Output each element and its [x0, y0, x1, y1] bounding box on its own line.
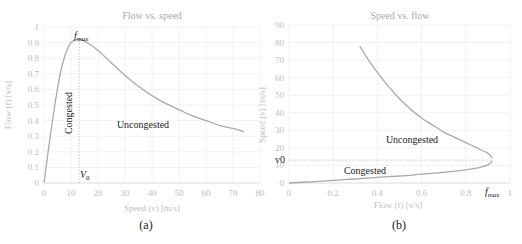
chart-a-fmax-annotation: fmax: [74, 30, 89, 43]
y-tick-label: 20: [275, 143, 285, 153]
x-tick-label: 0.2: [328, 188, 339, 198]
y-tick-label: 40: [275, 108, 285, 118]
chart-b-congested-curve: [289, 161, 492, 183]
x-tick-label: 0.6: [416, 188, 428, 198]
y-tick-label: 0.2: [28, 147, 39, 157]
chart-b-subplot-label: (b): [392, 218, 406, 232]
y-tick-label: 0: [35, 178, 40, 188]
chart-b-fmax-annotation: fmax: [485, 186, 500, 199]
x-tick-label: 0.8: [460, 188, 472, 198]
chart-a-y-axis-label: Flow (f) [v/s]: [3, 81, 13, 130]
chart-a-y-ticks: 00.10.20.30.40.50.60.70.80.91: [28, 22, 40, 188]
x-tick-label: 50: [175, 188, 185, 198]
chart-b-grid: [289, 25, 510, 183]
x-tick-label: 0.4: [372, 188, 384, 198]
chart-b-speed-vs-flow: Speed vs. flow 0102030405060708090 00.20…: [257, 10, 512, 232]
y-tick-label: 80: [275, 38, 285, 48]
chart-b-y-axis-label: Speed (v) [m/s]: [257, 87, 267, 143]
y-tick-label: 50: [275, 90, 285, 100]
chart-b-congested-label: Congested: [344, 165, 386, 176]
chart-a-x-ticks: 01020304050607080: [42, 188, 265, 198]
chart-a-subplot-label: (a): [139, 218, 152, 232]
chart-b-x-axis-label: Flow (f) [v/s]: [374, 200, 423, 210]
y-tick-label: 0.6: [28, 84, 40, 94]
x-tick-label: 40: [148, 188, 158, 198]
chart-a-title: Flow vs. speed: [122, 10, 182, 21]
x-tick-label: 20: [94, 188, 104, 198]
y-tick-label: 1: [35, 22, 40, 32]
x-tick-label: 0: [287, 188, 292, 198]
chart-a-uncongested-label: Uncongested: [117, 119, 169, 130]
y-tick-label: 0: [280, 178, 285, 188]
x-tick-label: 1: [508, 188, 513, 198]
y-tick-label: 70: [275, 55, 285, 65]
chart-a-x-axis-label: Speed (v) [m/s]: [124, 203, 180, 213]
x-tick-label: 0: [42, 188, 47, 198]
y-tick-label: 30: [275, 125, 285, 135]
chart-a-flow-vs-speed: Flow vs. speed 00.10.20.30.40.50.60.70.8…: [3, 10, 265, 232]
figure: Flow vs. speed 00.10.20.30.40.50.60.70.8…: [0, 0, 522, 244]
y-tick-label: 0.7: [28, 69, 40, 79]
y-tick-label: 90: [275, 20, 285, 30]
chart-a-congested-label: Congested: [63, 92, 74, 134]
chart-b-uncongested-label: Uncongested: [386, 134, 438, 145]
y-tick-label: 0.5: [28, 100, 40, 110]
y-tick-label: 60: [275, 73, 285, 83]
y-tick-label: 0.3: [28, 131, 40, 141]
chart-b-x-ticks: 00.20.40.60.81: [287, 188, 513, 198]
x-tick-label: 70: [229, 188, 239, 198]
x-tick-label: 80: [256, 188, 266, 198]
chart-a-v0-annotation: V0: [80, 169, 90, 182]
x-tick-label: 60: [202, 188, 212, 198]
y-tick-label: 0.9: [28, 38, 40, 48]
y-tick-label: 0.8: [28, 53, 40, 63]
x-tick-label: 30: [121, 188, 131, 198]
x-tick-label: 10: [67, 188, 77, 198]
y-tick-label: 0.4: [28, 116, 40, 126]
chart-b-title: Speed vs. flow: [370, 10, 430, 21]
y-tick-label: 0.1: [28, 162, 39, 172]
chart-b-v0-annotation: v0: [275, 154, 285, 165]
chart-a-grid: [44, 27, 260, 183]
